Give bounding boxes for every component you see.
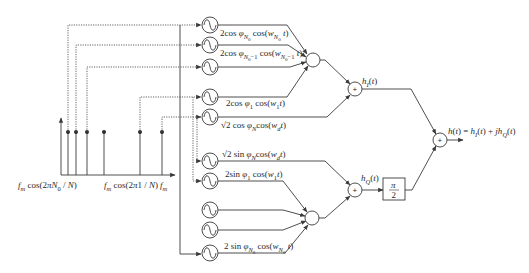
osc-label-n0-minus-1-cos: 2cos φN0−1 cos(wN0−1 t) bbox=[220, 48, 302, 62]
output-equation: h(t) = hI(t) + jhQ(t) bbox=[448, 126, 516, 138]
doppler-spectrum-plot: fm cos(2πN0 / N) fm cos(2π1 / N) fm bbox=[18, 118, 175, 192]
oscillator-icon bbox=[202, 245, 218, 261]
osc-label-doppler-sin: √2 sin φNcos(wdt) bbox=[222, 149, 286, 161]
channel-generator-diagram: fm cos(2πN0 / N) fm cos(2π1 / N) fm 2cos… bbox=[0, 0, 529, 273]
oscillator-icon bbox=[202, 202, 218, 218]
label-h-q: hQ(t) bbox=[361, 173, 379, 185]
frequency-feed-lines bbox=[68, 25, 201, 254]
summation-node-icon bbox=[306, 53, 320, 67]
final-combiner: + h(t) = hI(t) + jhQ(t) bbox=[433, 126, 516, 147]
oscillator-icon bbox=[202, 153, 218, 169]
oscillator-icon bbox=[202, 222, 218, 238]
oscillator-icon bbox=[202, 37, 218, 53]
phase-shift-numerator: π bbox=[391, 180, 396, 190]
oscillator-icon bbox=[202, 59, 218, 75]
adder-plus: + bbox=[438, 136, 443, 145]
osc-label-1-sin: 2sin φ1 cos(w1t) bbox=[225, 169, 283, 181]
label-fm: fm bbox=[160, 180, 168, 192]
label-fm-cos-n0: fm cos(2πN0 / N) bbox=[18, 180, 77, 192]
oscillator-icon bbox=[202, 173, 218, 189]
osc-label-1-cos: 2cos φ1 cos(w1t) bbox=[226, 98, 285, 110]
adder-plus: + bbox=[353, 186, 358, 195]
oscillator-icon bbox=[202, 89, 218, 105]
summation-node-icon bbox=[305, 211, 319, 225]
phase-shift-denominator: 2 bbox=[392, 190, 397, 200]
quadrature-branch: √2 sin φNcos(wdt) 2sin φ1 cos(w1t) 2 sin… bbox=[202, 146, 436, 261]
oscillator-icon bbox=[202, 17, 218, 33]
label-h-i: hI(t) bbox=[362, 76, 377, 88]
osc-label-doppler-cos: √2 cos φNcos(wdt) bbox=[221, 120, 286, 132]
label-fm-cos-1: fm cos(2π1 / N) bbox=[104, 180, 158, 192]
osc-label-n0-cos: 2cos φN0 cos(wN0 t) bbox=[220, 28, 288, 42]
adder-plus: + bbox=[353, 85, 358, 94]
in-phase-branch: 2cos φN0 cos(wN0 t) 2cos φN0−1 cos(wN0−1… bbox=[202, 17, 436, 134]
phase-shift-block: π 2 bbox=[383, 178, 405, 200]
oscillator-icon bbox=[202, 109, 218, 125]
spectral-stems bbox=[66, 130, 164, 175]
